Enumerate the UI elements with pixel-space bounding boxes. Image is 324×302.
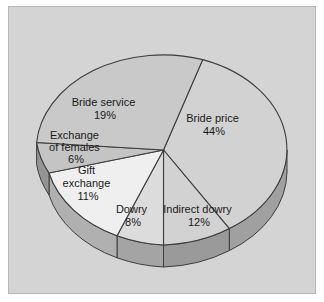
pie-chart-svg: Bride price 44% Indirect dowry 12% Dowry… (0, 0, 324, 302)
pie-chart-figure: Bride price 44% Indirect dowry 12% Dowry… (0, 0, 324, 302)
